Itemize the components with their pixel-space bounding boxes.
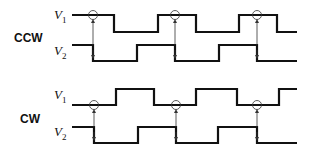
ccw-v1-waveform [72,15,297,32]
waveform-diagram [0,0,316,153]
cw-v2-waveform [72,127,297,143]
cw-v1-waveform [72,89,297,105]
ccw-v2-waveform [72,45,297,61]
